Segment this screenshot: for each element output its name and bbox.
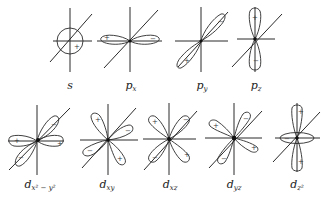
sign-minus: − <box>150 35 156 43</box>
sign-plus: + <box>14 137 20 145</box>
sign-minus: − <box>18 154 24 162</box>
sign-plus: + <box>104 34 110 42</box>
sign-plus: + <box>184 57 190 65</box>
sign-plus: + <box>74 43 80 51</box>
label-py: py <box>196 79 207 93</box>
label-px: px <box>126 79 137 93</box>
sign-plus: + <box>184 151 190 159</box>
label-dxz: dxz <box>163 178 178 192</box>
sign-plus: + <box>251 144 257 152</box>
sign-minus: − <box>51 121 57 129</box>
orbital-py: − + <box>175 7 228 72</box>
orbital-dz2: + − + <box>273 103 320 172</box>
sign-plus: + <box>213 122 219 130</box>
sign-minus: − <box>284 135 290 143</box>
sign-plus: + <box>298 108 304 116</box>
sign-minus: − <box>183 116 189 124</box>
sign-minus: − <box>152 154 158 162</box>
label-dyz: dyz <box>227 178 242 192</box>
sign-minus: − <box>221 155 227 163</box>
sign-plus: + <box>95 116 101 124</box>
label-s: s <box>67 79 73 92</box>
label-dz2: dz² <box>290 178 304 192</box>
sign-plus: + <box>252 14 258 22</box>
sign-minus: − <box>243 115 249 123</box>
sign-plus: + <box>298 158 304 166</box>
sign-plus: + <box>117 155 123 163</box>
label-dx2-y2: dx² − y² <box>25 178 56 192</box>
sign-plus: + <box>152 118 158 126</box>
sign-minus: − <box>218 18 224 26</box>
orbital-dx2-y2: + − + − <box>8 105 70 175</box>
sign-minus: − <box>253 57 259 65</box>
sign-plus: + <box>57 140 63 148</box>
label-pz: pz <box>251 79 262 93</box>
sign-minus: − <box>87 147 93 155</box>
orbital-dxy: + − − + <box>80 104 138 175</box>
orbital-dxz: + − − + <box>143 103 197 175</box>
orbital-diagram: + + − − + + − <box>0 0 326 198</box>
orbital-s: + <box>50 8 92 72</box>
orbital-px: + − <box>97 7 162 72</box>
orbital-dyz: + − + − <box>205 103 262 175</box>
sign-minus: − <box>125 127 131 135</box>
label-dxy: dxy <box>100 178 115 192</box>
orbital-pz: + − <box>232 7 282 72</box>
